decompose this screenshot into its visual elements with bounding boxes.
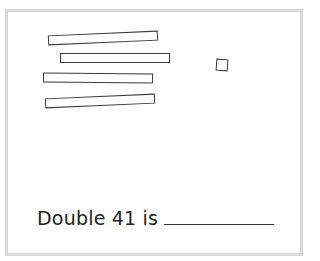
tens-rod-3 [43,73,153,84]
question-prefix: Double 41 is [37,207,158,229]
tens-rod-2 [60,53,170,63]
question-text: Double 41 is [37,206,274,229]
answer-blank[interactable] [164,206,274,225]
ones-cube [216,59,229,72]
